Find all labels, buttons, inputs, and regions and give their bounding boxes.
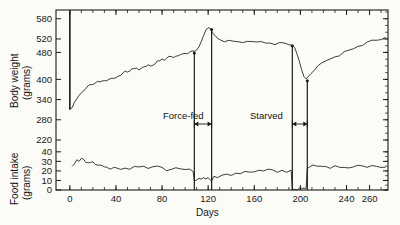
y-tick-label-body-weight: 520 — [36, 33, 52, 44]
annotation-starved: Starved — [250, 111, 283, 121]
y-tick-label-body-weight: 400 — [36, 74, 52, 85]
x-tick-label: 120 — [200, 193, 216, 204]
x-tick-label: 40 — [111, 193, 122, 204]
y-axis-body-weight-title-line2: (grams) — [22, 66, 32, 100]
plot-frame — [56, 10, 388, 190]
y-tick-label-body-weight: 280 — [36, 114, 52, 125]
x-axis-title: Days — [196, 208, 219, 218]
intervention-arrowhead-left-force-fed — [194, 122, 198, 127]
body-weight-trace — [70, 28, 386, 109]
y-tick-label-body-weight: 340 — [36, 94, 52, 105]
intervention-dot-end-force-fed — [210, 28, 213, 31]
y-tick-label-body-weight: 580 — [36, 13, 52, 24]
x-tick-label: 80 — [157, 193, 168, 204]
intervention-dot-end-starved — [306, 79, 309, 82]
figure-root: 0408012016020024026058052048040034028022… — [0, 0, 400, 225]
y-tick-label-body-weight: 480 — [36, 47, 52, 58]
y-axis-food-intake-title-line2: (grams) — [22, 166, 32, 200]
x-tick-label: 240 — [339, 193, 355, 204]
x-tick-label: 200 — [292, 193, 308, 204]
y-tick-label-food-intake: 0 — [47, 184, 52, 195]
y-tick-label-body-weight: 220 — [36, 134, 52, 145]
y-axis-food-intake-title-line1: Food intake — [10, 153, 20, 205]
food-intake-trace — [72, 158, 386, 190]
x-tick-label: 160 — [246, 193, 262, 204]
intervention-dot-start-starved — [291, 44, 294, 47]
y-axis-body-weight-title-line1: Body weight — [10, 54, 20, 108]
x-tick-label: 0 — [67, 193, 72, 204]
x-tick-label: 260 — [362, 193, 378, 204]
intervention-dot-start-force-fed — [193, 52, 196, 55]
annotation-force-fed: Force-fed — [163, 111, 204, 121]
